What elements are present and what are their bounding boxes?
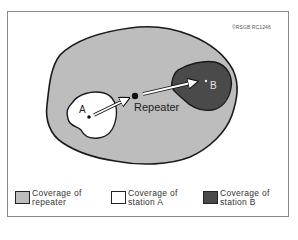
station-b-label: B — [210, 80, 217, 91]
legend-label-line2: station B — [220, 198, 270, 207]
copyright-notice: ©RSGB RC1246 — [232, 24, 271, 30]
dark-gray-swatch-icon — [203, 191, 218, 204]
light-gray-swatch-icon — [15, 191, 30, 204]
repeater-label: Repeater — [134, 101, 179, 113]
legend-item-repeater: Coverage of repeater — [15, 189, 82, 207]
station-b-dot — [205, 80, 207, 82]
legend-item-station-b: Coverage of station B — [203, 189, 270, 207]
legend-label-line2: repeater — [32, 198, 82, 207]
legend-item-station-a: Coverage of station A — [111, 189, 178, 207]
station-a-dot — [87, 115, 91, 119]
repeater-dot — [132, 93, 138, 99]
white-swatch-icon — [111, 191, 126, 204]
station-a-label: A — [79, 104, 86, 115]
legend-label-line2: station A — [128, 198, 178, 207]
